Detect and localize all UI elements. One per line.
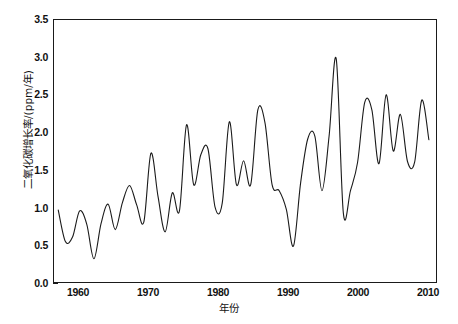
data-line-path: [58, 57, 429, 258]
y-tick-label-1-0: 1.0: [10, 202, 48, 214]
x-tick-label-1970: 1970: [127, 286, 169, 298]
chart-figure: 二氧化碳增长率/(ppm/年) 3.5 3.0 2.5 2.0 1.5 1.0 …: [0, 0, 458, 324]
y-tick-label-0-0: 0.0: [10, 277, 48, 289]
x-tick-label-1960: 1960: [57, 286, 99, 298]
y-tick-mark-0-0: [53, 283, 58, 284]
x-tick-label-1990: 1990: [267, 286, 309, 298]
plot-area: [53, 19, 437, 283]
y-tick-label-2-5: 2.5: [10, 88, 48, 100]
y-tick-label-1-5: 1.5: [10, 164, 48, 176]
x-tick-label-1980: 1980: [197, 286, 239, 298]
co2-growth-line-series: [54, 20, 436, 282]
x-axis-title: 年份: [0, 300, 458, 315]
x-tick-label-2010: 2010: [407, 286, 449, 298]
y-tick-label-0-5: 0.5: [10, 239, 48, 251]
y-tick-label-3-5: 3.5: [10, 13, 48, 25]
x-tick-label-2000: 2000: [337, 286, 379, 298]
y-tick-label-3-0: 3.0: [10, 51, 48, 63]
y-tick-label-2-0: 2.0: [10, 126, 48, 138]
